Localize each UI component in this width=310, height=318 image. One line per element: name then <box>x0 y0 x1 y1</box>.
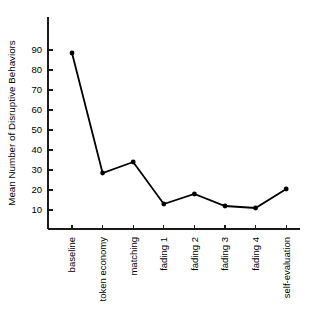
data-point-marker[interactable] <box>131 160 136 165</box>
y-axis-tick-label: 20 <box>31 184 42 195</box>
y-axis-tick-label: 70 <box>31 84 42 95</box>
data-series-line <box>72 53 286 208</box>
x-axis-category-label: fading 3 <box>219 237 230 271</box>
x-axis-category-label: fading 1 <box>158 237 169 271</box>
x-axis-category-label: baseline <box>66 237 77 272</box>
x-axis-category-label: fading 2 <box>189 237 200 271</box>
y-axis-tick-label: 50 <box>31 124 42 135</box>
y-axis-title: Mean Number of Disruptive Behaviors <box>6 40 17 206</box>
y-axis-tick-label: 60 <box>31 104 42 115</box>
data-point-marker[interactable] <box>161 202 166 207</box>
data-point-marker[interactable] <box>253 206 258 211</box>
data-point-marker[interactable] <box>70 51 75 56</box>
y-axis-tick-label: 80 <box>31 64 42 75</box>
y-axis-tick-label: 40 <box>31 144 42 155</box>
x-axis-category-label: fading 4 <box>250 237 261 271</box>
chart-figure: 102030405060708090Mean Number of Disrupt… <box>0 0 310 318</box>
data-point-marker[interactable] <box>223 204 228 209</box>
y-axis-tick-label: 90 <box>31 44 42 55</box>
x-axis-category-label: self-evaluation <box>281 237 292 298</box>
x-axis-category-label: token economy <box>97 237 108 302</box>
line-chart: 102030405060708090Mean Number of Disrupt… <box>0 0 310 318</box>
data-point-marker[interactable] <box>100 171 105 176</box>
y-axis-tick-label: 30 <box>31 164 42 175</box>
data-point-marker[interactable] <box>192 192 197 197</box>
y-axis-tick-label: 10 <box>31 204 42 215</box>
x-axis-category-label: matching <box>128 237 139 276</box>
data-point-marker[interactable] <box>284 187 289 192</box>
